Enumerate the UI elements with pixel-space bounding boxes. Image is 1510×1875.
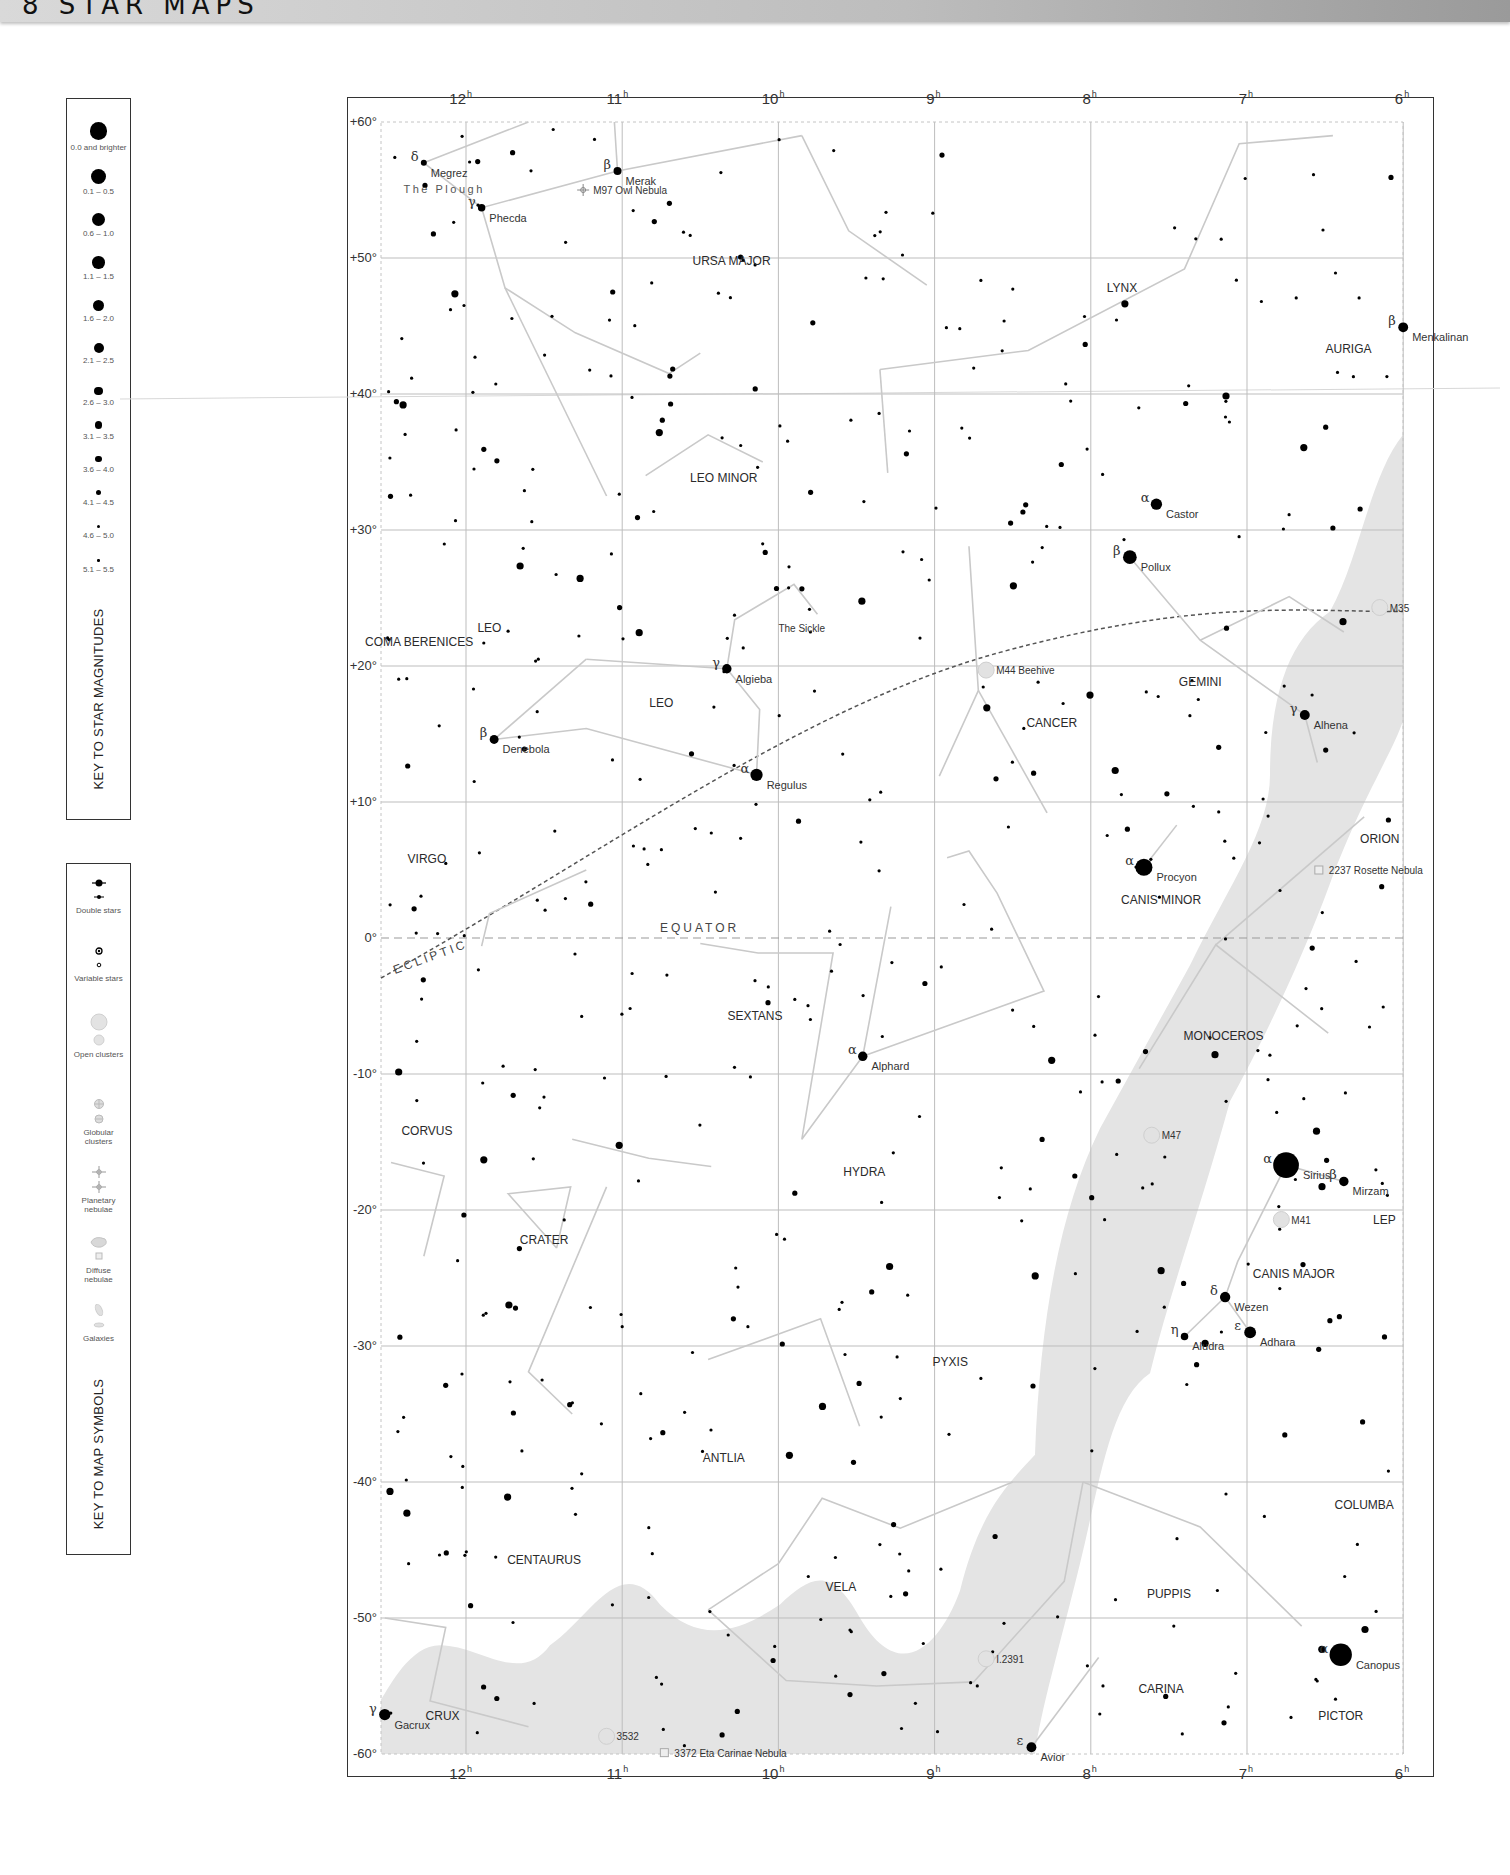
- star: [639, 1392, 642, 1395]
- star: [630, 396, 633, 399]
- named-star[interactable]: [750, 769, 762, 781]
- diffuse-nebula-icon[interactable]: [1315, 866, 1323, 874]
- open-cluster-icon[interactable]: [599, 1728, 615, 1744]
- star-name-label: Adhara: [1260, 1336, 1296, 1348]
- named-star[interactable]: [1339, 1177, 1348, 1186]
- star: [918, 637, 921, 640]
- star: [979, 279, 982, 282]
- star: [1232, 857, 1235, 860]
- named-star[interactable]: [1135, 859, 1152, 876]
- star: [742, 646, 745, 649]
- star: [511, 1093, 516, 1098]
- star: [531, 468, 534, 471]
- star: [636, 629, 643, 636]
- star: [522, 547, 525, 550]
- star: [1379, 884, 1384, 889]
- star: [834, 1556, 837, 1559]
- asterism-label: The Sickle: [778, 623, 825, 634]
- star: [463, 1554, 466, 1557]
- star: [533, 1702, 536, 1705]
- star-name-label: Avior: [1040, 1751, 1065, 1763]
- star: [1121, 300, 1128, 307]
- named-star[interactable]: [1330, 1644, 1352, 1666]
- star: [1149, 858, 1152, 861]
- named-star[interactable]: [490, 735, 499, 744]
- star: [588, 902, 593, 907]
- named-star[interactable]: [1123, 550, 1137, 564]
- star: [637, 1179, 640, 1182]
- diffuse-nebula-icon[interactable]: [660, 1749, 668, 1757]
- star: [1173, 226, 1176, 229]
- open-cluster-icon[interactable]: [1273, 1212, 1289, 1228]
- named-star[interactable]: [421, 160, 427, 166]
- star-name-label: Castor: [1166, 508, 1199, 520]
- named-star[interactable]: [478, 204, 485, 211]
- star: [886, 1263, 893, 1270]
- star: [555, 573, 558, 576]
- ra-label-h: h: [623, 1764, 628, 1774]
- star: [753, 979, 756, 982]
- star: [1145, 690, 1148, 693]
- star: [589, 1306, 592, 1309]
- star: [577, 634, 580, 637]
- star: [1115, 1153, 1118, 1156]
- star: [455, 428, 458, 431]
- star: [536, 710, 539, 713]
- star: [517, 562, 524, 569]
- open-cluster-icon[interactable]: [1372, 600, 1388, 616]
- deep-sky-label: M44 Beehive: [996, 665, 1055, 676]
- ra-label-h: h: [779, 1764, 784, 1774]
- star: [1266, 1078, 1269, 1081]
- star: [689, 234, 692, 237]
- named-star[interactable]: [1398, 322, 1408, 332]
- named-star[interactable]: [1220, 1292, 1230, 1302]
- greek-letter-label: β: [1329, 1167, 1337, 1182]
- star: [689, 751, 694, 756]
- star: [1183, 401, 1188, 406]
- star: [808, 490, 813, 495]
- open-cluster-icon[interactable]: [978, 1651, 994, 1667]
- star: [1311, 693, 1314, 696]
- named-star[interactable]: [858, 1052, 867, 1061]
- star: [452, 221, 455, 224]
- named-star[interactable]: [1273, 1152, 1299, 1178]
- named-star[interactable]: [1027, 1742, 1037, 1752]
- star: [1194, 237, 1197, 240]
- open-cluster-icon[interactable]: [1144, 1127, 1160, 1143]
- ra-label-top: 9: [926, 90, 934, 107]
- star: [1310, 946, 1315, 951]
- named-star[interactable]: [1151, 499, 1162, 510]
- open-cluster-icon[interactable]: [978, 662, 994, 678]
- star: [879, 230, 882, 233]
- star: [778, 138, 781, 141]
- star: [1344, 1091, 1347, 1094]
- star: [787, 565, 790, 568]
- star: [813, 690, 816, 693]
- star: [733, 614, 736, 617]
- named-star[interactable]: [1300, 710, 1310, 720]
- star: [611, 1603, 614, 1606]
- star: [828, 930, 831, 933]
- star: [651, 1552, 654, 1555]
- star: [1216, 1589, 1219, 1592]
- named-star[interactable]: [379, 1709, 390, 1720]
- named-star[interactable]: [1181, 1333, 1188, 1340]
- greek-letter-label: η: [1171, 1322, 1179, 1337]
- named-star[interactable]: [722, 664, 731, 673]
- named-star[interactable]: [1244, 1327, 1256, 1339]
- star: [472, 467, 475, 470]
- star: [1032, 1025, 1035, 1028]
- star: [983, 704, 990, 711]
- star: [922, 981, 927, 986]
- star: [767, 985, 770, 988]
- star: [1032, 1272, 1039, 1279]
- star: [918, 1115, 921, 1118]
- named-star[interactable]: [614, 167, 622, 175]
- star: [889, 1595, 892, 1598]
- star: [1187, 384, 1190, 387]
- star: [868, 798, 871, 801]
- star: [1002, 1622, 1005, 1625]
- star: [1164, 791, 1169, 796]
- star: [542, 1096, 545, 1099]
